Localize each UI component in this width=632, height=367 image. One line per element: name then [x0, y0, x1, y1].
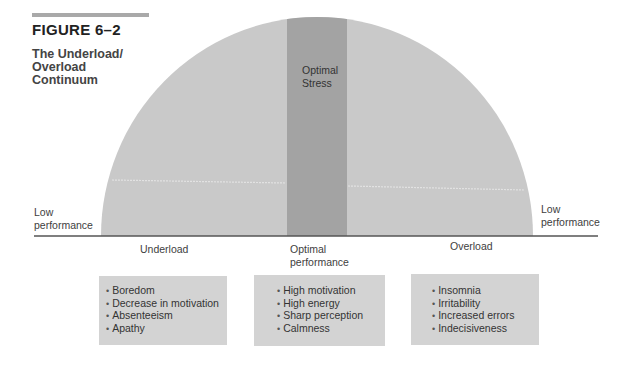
list-item: Indecisiveness [432, 323, 515, 336]
optimal-stress-label: Optimal Stress [302, 64, 338, 90]
optimal-stress-band [287, 0, 347, 236]
label-line: Optimal [302, 64, 338, 77]
label-line: Low [541, 203, 600, 216]
list-item: Apathy [106, 323, 219, 336]
optimal-symptoms-box: High motivation High energy Sharp percep… [254, 275, 385, 346]
underload-label: Underload [140, 243, 188, 256]
list-item: High motivation [277, 285, 363, 298]
list-item: Sharp perception [277, 310, 363, 323]
label-line: performance [541, 216, 600, 229]
list-item: Absenteeism [106, 310, 219, 323]
label-line: performance [290, 256, 349, 269]
list-item: Calmness [277, 323, 363, 336]
overload-symptoms-box: Insomnia Irritability Increased errors I… [411, 274, 539, 345]
underload-symptoms-box: Boredom Decrease in motivation Absenteei… [99, 276, 227, 345]
list-item: Increased errors [432, 310, 515, 323]
overload-label: Overload [450, 240, 493, 253]
list-item: Insomnia [432, 285, 515, 298]
label-line: Low [34, 206, 93, 219]
label-line: Stress [302, 77, 338, 90]
right-low-performance-label: Low performance [541, 203, 600, 229]
list-item: Boredom [106, 285, 219, 298]
label-line: Optimal [290, 243, 349, 256]
label-line: performance [34, 219, 93, 232]
left-low-performance-label: Low performance [34, 206, 93, 232]
optimal-performance-label: Optimal performance [290, 243, 349, 269]
